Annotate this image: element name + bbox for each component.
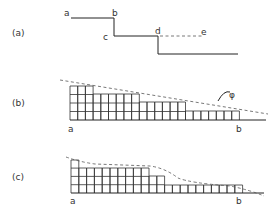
grid-column (188, 185, 196, 193)
step-line-a (71, 18, 238, 54)
grid-column (102, 168, 110, 193)
panel-b-label: (b) (12, 98, 25, 108)
grid-column (232, 111, 240, 120)
staircase-grid-c (71, 160, 243, 193)
panel-a-label: (a) (12, 28, 25, 38)
panel-c: (c) a b (12, 157, 264, 206)
grid-column (204, 185, 212, 193)
panel-a: (a) a b c d e (12, 8, 238, 54)
grid-column (139, 102, 147, 120)
grid-column (178, 102, 186, 120)
grid-column (93, 94, 101, 120)
point-label-d: d (155, 26, 161, 36)
grid-column (172, 185, 180, 193)
endpoint-label-b: b (236, 124, 242, 134)
figure: (a) a b c d e (b) φ a b (c) a b (0, 0, 278, 210)
grid-column (124, 94, 132, 120)
staircase-grid-b (70, 86, 239, 120)
point-label-a: a (64, 8, 70, 18)
grid-column (71, 160, 79, 193)
endpoint-label-a: a (68, 124, 74, 134)
grid-column (224, 111, 232, 120)
grid-column (165, 185, 173, 193)
grid-column (126, 168, 134, 193)
grid-column (109, 94, 117, 120)
grid-column (219, 185, 227, 193)
endpoint-label-b: b (236, 196, 242, 206)
grid-column (170, 102, 178, 120)
grid-column (209, 111, 217, 120)
angle-label-phi: φ (229, 90, 235, 100)
grid-column (70, 86, 78, 120)
endpoint-label-a: a (70, 196, 76, 206)
grid-column (149, 176, 157, 193)
grid-column (147, 102, 155, 120)
grid-column (180, 185, 188, 193)
grid-column (133, 168, 141, 193)
panel-b: (b) φ a b (12, 80, 268, 134)
grid-column (193, 111, 201, 120)
grid-column (118, 168, 126, 193)
grid-column (235, 185, 243, 193)
grid-column (116, 94, 124, 120)
grid-column (141, 168, 149, 193)
grid-column (79, 168, 87, 193)
grid-column (157, 176, 165, 193)
grid-column (94, 168, 102, 193)
point-label-c: c (103, 32, 108, 42)
grid-column (87, 168, 95, 193)
point-label-b: b (112, 8, 118, 18)
point-label-e: e (201, 27, 207, 37)
grid-column (216, 111, 224, 120)
grid-column (132, 94, 140, 120)
grid-column (211, 185, 219, 193)
slope-line-b (60, 80, 268, 114)
grid-column (155, 102, 163, 120)
grid-column (85, 86, 93, 120)
grid-column (110, 168, 118, 193)
grid-column (196, 185, 204, 193)
panel-c-label: (c) (12, 172, 24, 182)
grid-column (201, 111, 209, 120)
grid-column (78, 86, 86, 120)
grid-column (186, 111, 194, 120)
grid-column (101, 94, 109, 120)
grid-column (162, 102, 170, 120)
